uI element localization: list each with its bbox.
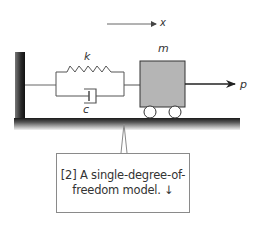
caption-line-1: [2] A single-degree-of- — [61, 168, 185, 183]
force-label: p — [239, 78, 247, 91]
damping-label: c — [83, 103, 89, 116]
spring-icon — [56, 66, 124, 72]
mass-label: m — [158, 42, 169, 55]
caption-callout: [2] A single-degree-of- freedom model. ↓ — [56, 153, 190, 213]
stiffness-label: k — [84, 50, 91, 63]
spring-damper-assembly — [56, 66, 140, 103]
displacement-arrow: x — [107, 17, 166, 28]
wheel-icon — [144, 106, 156, 118]
caption-line-2: freedom model. ↓ — [61, 183, 185, 198]
fixed-wall — [15, 52, 25, 120]
mass-block — [140, 61, 185, 107]
caption-text: [2] A single-degree-of- freedom model. ↓ — [61, 168, 185, 198]
displacement-label: x — [159, 17, 166, 28]
ground-surface — [14, 118, 240, 130]
wheel-icon — [169, 106, 181, 118]
